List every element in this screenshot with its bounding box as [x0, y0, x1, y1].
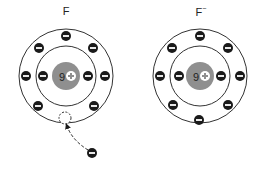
atom-diagram: 9 9	[0, 0, 262, 169]
electron	[168, 100, 178, 110]
electron	[174, 71, 184, 81]
fluoride-ion: 9	[153, 29, 247, 125]
electron	[21, 71, 31, 81]
nucleus: 9	[186, 62, 214, 90]
electron	[89, 101, 99, 111]
electron	[223, 43, 233, 53]
dashed-arrow	[67, 126, 88, 150]
nucleus: 9	[52, 62, 80, 90]
electron	[223, 100, 233, 110]
electron	[61, 31, 71, 41]
electron	[235, 71, 245, 81]
electron	[216, 71, 226, 81]
electron	[88, 43, 98, 53]
electron	[100, 71, 110, 81]
electron	[155, 71, 165, 81]
electron	[38, 71, 48, 81]
svg-text:9: 9	[193, 71, 199, 83]
electron	[167, 43, 177, 53]
svg-text:9: 9	[59, 71, 65, 83]
electron	[83, 71, 93, 81]
free-electron	[87, 148, 97, 158]
electron	[33, 101, 43, 111]
electron	[34, 43, 44, 53]
electron	[194, 115, 204, 125]
fluorine-atom: 9	[19, 29, 113, 124]
electron-vacancy	[59, 112, 71, 124]
electron	[195, 31, 205, 41]
